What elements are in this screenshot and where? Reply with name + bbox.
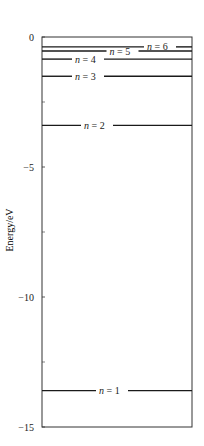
energy-levels: n = 1n = 2n = 3n = 4n = 5n = 6 <box>42 41 192 396</box>
tick-label: −15 <box>18 422 34 433</box>
level-label: n = 1 <box>99 385 120 396</box>
energy-level-n2: n = 2 <box>42 120 192 131</box>
frame-rect <box>42 37 192 427</box>
y-axis-label: Energy/eV <box>4 208 15 252</box>
y-axis-ticks: 0−5−10−15 <box>18 32 45 433</box>
tick-label: −5 <box>23 162 34 173</box>
level-label: n = 4 <box>75 54 96 65</box>
tick-label: 0 <box>29 32 34 43</box>
level-label: n = 6 <box>147 41 168 52</box>
level-label: n = 2 <box>84 120 105 131</box>
plot-frame <box>42 37 192 427</box>
level-label: n = 3 <box>75 71 96 82</box>
energy-level-n1: n = 1 <box>42 385 192 396</box>
tick-label: −10 <box>18 292 34 303</box>
energy-level-n3: n = 3 <box>42 71 192 82</box>
energy-level-diagram: 0−5−10−15 n = 1n = 2n = 3n = 4n = 5n = 6… <box>0 0 204 446</box>
